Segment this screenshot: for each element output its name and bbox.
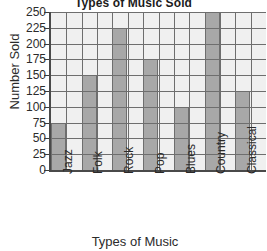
plot-inner: [51, 12, 266, 170]
y-axis-tick-label: 0: [16, 165, 46, 175]
x-axis-category-label: Blues: [185, 144, 197, 174]
horizontal-gridline: [51, 123, 266, 124]
y-axis-tick-mark: [44, 123, 49, 124]
x-axis-category-label: Pop: [154, 153, 166, 174]
y-axis-tick-label: 225: [16, 23, 46, 33]
y-axis-tick-label: 25: [16, 149, 46, 159]
horizontal-gridline: [51, 91, 266, 92]
y-axis-tick-label: 150: [16, 70, 46, 80]
y-axis-tick-mark: [44, 75, 49, 76]
x-axis-category-label: Classical: [246, 126, 258, 174]
x-axis-title: Types of Music: [49, 234, 221, 249]
horizontal-gridline: [51, 44, 266, 45]
y-axis-tick-label: 125: [16, 86, 46, 96]
x-axis-category-label: Rock: [123, 147, 135, 174]
y-axis-tick-labels: 2502252001751501251007550250: [16, 12, 46, 170]
y-axis-tick-mark: [44, 12, 49, 13]
x-axis-category-label: Folk: [92, 151, 104, 174]
y-axis-tick-mark: [44, 28, 49, 29]
horizontal-gridline: [51, 107, 266, 108]
x-axis-category-label: Country: [215, 132, 227, 174]
y-axis-tick-label: 50: [16, 133, 46, 143]
y-axis-tick-label: 75: [16, 118, 46, 128]
horizontal-gridline: [51, 75, 266, 76]
y-axis-tick-mark: [44, 59, 49, 60]
y-axis-tick-mark: [44, 44, 49, 45]
horizontal-gridline: [51, 12, 266, 13]
horizontal-gridline: [51, 138, 266, 139]
y-axis-tick-mark: [44, 138, 49, 139]
bar-chart: Types of Music Sold Number Sold 25022520…: [0, 0, 267, 251]
y-axis-tick-label: 250: [16, 7, 46, 17]
horizontal-gridline: [51, 59, 266, 60]
plot-area: [49, 12, 266, 172]
y-axis-tick-mark: [44, 91, 49, 92]
x-axis-category-label: Jazz: [62, 149, 74, 174]
y-axis-tick-mark: [44, 154, 49, 155]
y-axis-tick-mark: [44, 107, 49, 108]
y-axis-tick-label: 175: [16, 54, 46, 64]
horizontal-gridline: [51, 28, 266, 29]
y-axis-tick-label: 200: [16, 39, 46, 49]
y-axis-tick-label: 100: [16, 102, 46, 112]
y-axis-tick-mark: [44, 170, 49, 171]
